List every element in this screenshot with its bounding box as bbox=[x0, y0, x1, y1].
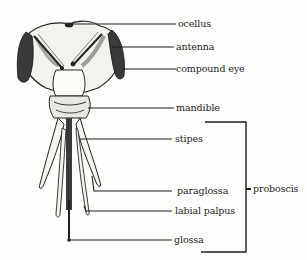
insect-head-illustration bbox=[0, 0, 307, 260]
label-proboscis: proboscis bbox=[253, 183, 298, 195]
label-mandible: mandible bbox=[176, 102, 220, 114]
leader-labial-palpus bbox=[84, 206, 172, 211]
label-ocellus: ocellus bbox=[178, 18, 211, 30]
head-capsule bbox=[17, 21, 124, 118]
label-compound-eye: compound eye bbox=[176, 63, 245, 75]
label-paraglossa: paraglossa bbox=[177, 185, 228, 197]
diagram-canvas: ocellus antenna compound eye mandible st… bbox=[0, 0, 307, 260]
label-antenna: antenna bbox=[176, 41, 214, 53]
label-labial-palpus: labial palpus bbox=[175, 205, 235, 217]
label-glossa: glossa bbox=[174, 234, 204, 246]
leader-paraglossa bbox=[92, 176, 172, 191]
label-stipes: stipes bbox=[175, 133, 203, 145]
mouthparts bbox=[39, 118, 100, 242]
ocellus-dot bbox=[65, 23, 73, 27]
